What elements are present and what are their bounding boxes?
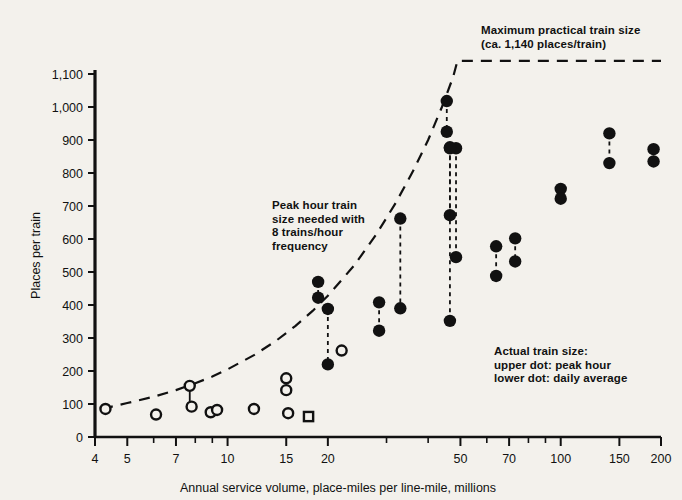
x-tick-label-20: 20 [321,452,335,466]
y-tick-label-300: 300 [62,332,83,346]
daily-average-dot [394,302,406,314]
daily-average-dot [441,126,453,138]
train-size-pair [450,142,462,263]
train-size-pair [373,296,385,337]
x-tick-label-70: 70 [502,452,516,466]
x-tick-label-15: 15 [279,452,293,466]
peak-hour-dot [490,240,502,252]
annotation-peak-hour-train-size: Peak hour train size needed with 8 train… [272,199,365,253]
x-tick-label-7: 7 [172,452,179,466]
open-square-marker [304,412,313,421]
daily-average-dot [509,255,521,267]
open-circle-marker [283,408,293,418]
open-circle-marker [187,402,197,412]
open-circle-marker [151,410,161,420]
peak-hour-dot [603,127,615,139]
open-circle-marker [281,385,291,395]
daily-average-dot [444,315,456,327]
peak-hour-dot [647,143,659,155]
peak-hour-dot [444,142,456,154]
y-tick-label-900: 900 [62,134,83,148]
chart-figure: 01002003004005006007008009001,0001,10045… [0,0,682,500]
y-tick-label-1100: 1,100 [52,68,83,82]
peak-hour-dot [322,303,334,315]
x-tick-label-150: 150 [609,452,630,466]
x-tick-label-200: 200 [651,452,672,466]
y-tick-label-1000: 1,000 [52,101,83,115]
peak-hour-dot [441,95,453,107]
train-size-pair [441,95,453,138]
daily-average-dot [322,358,334,370]
daily-average-dot [603,157,615,169]
x-tick-label-50: 50 [453,452,467,466]
y-tick-label-100: 100 [62,398,83,412]
train-size-pair [490,240,502,282]
x-tick-label-100: 100 [550,452,571,466]
x-tick-label-5: 5 [124,452,131,466]
train-size-pair [322,303,334,371]
open-circle-marker [100,404,110,414]
annotation-actual-train-size-legend: Actual train size: upper dot: peak hour … [494,345,627,386]
train-size-pair [603,127,615,169]
peak-hour-dot [373,296,385,308]
y-tick-label-0: 0 [76,431,83,445]
train-size-pair [555,183,567,205]
peak-hour-dot [312,276,324,288]
y-tick-label-600: 600 [62,233,83,247]
y-tick-label-200: 200 [62,365,83,379]
peak-hour-dot [509,232,521,244]
x-tick-label-4: 4 [92,452,99,466]
x-tick-label-10: 10 [221,452,235,466]
y-tick-label-500: 500 [62,266,83,280]
y-tick-label-800: 800 [62,167,83,181]
daily-average-dot [490,270,502,282]
y-axis-title: Places per train [29,212,43,299]
train-size-pair [509,232,521,268]
y-tick-label-700: 700 [62,200,83,214]
daily-average-dot [373,325,385,337]
peak-hour-dot [394,212,406,224]
daily-average-dot [312,292,324,304]
daily-average-dot [555,193,567,205]
open-circle-points [100,346,346,420]
train-size-pair [444,142,456,327]
axis-tick-labels: 01002003004005006007008009001,0001,10045… [29,68,671,496]
open-circle-marker [212,405,222,415]
open-square-points [304,412,313,421]
open-circle-marker [281,373,291,383]
open-circle-marker [249,404,259,414]
train-size-pair [394,212,406,314]
x-axis-title: Annual service volume, place-miles per l… [180,481,496,495]
open-circle-marker [337,346,347,356]
train-size-pair [647,143,659,168]
daily-average-dot [450,251,462,263]
axes [88,70,661,446]
train-size-pair [312,276,324,304]
open-circle-marker [185,381,195,391]
annotation-maximum-practical-train-size: Maximum practical train size (ca. 1,140 … [481,24,640,51]
daily-average-dot [647,155,659,167]
y-tick-label-400: 400 [62,299,83,313]
